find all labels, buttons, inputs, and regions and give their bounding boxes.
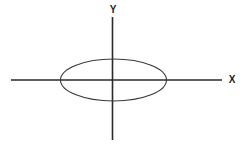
- coordinate-plane-diagram: [0, 0, 246, 146]
- figure-background: [0, 0, 246, 146]
- figure-container: Y X: [0, 0, 246, 146]
- x-axis-label: X: [226, 75, 238, 85]
- y-axis-label: Y: [107, 5, 119, 15]
